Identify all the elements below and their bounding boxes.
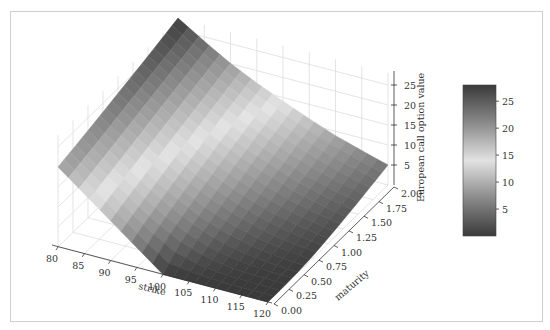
z-tick-label: 5 [404,160,410,171]
y-axis-label: maturity [332,267,371,302]
x-tick-label: 80 [46,253,58,264]
colorbar-tick-label: 15 [502,150,514,161]
x-tick-label: 115 [227,301,245,312]
z-axis-label: European call option value [415,72,426,202]
y-tick-label: 0.50 [311,276,332,287]
y-tick-label: 1.50 [371,217,392,228]
y-tick-label: 0.00 [281,305,302,316]
y-tick-label: 1.00 [341,247,362,258]
x-tick-label: 90 [98,267,110,278]
colorbar-tick-label: 10 [502,177,514,188]
colorbar-tick-label: 20 [502,123,514,134]
x-tick-label: 85 [72,260,84,271]
y-tick-label: 0.25 [296,290,317,301]
colorbar-tick-label: 5 [502,204,508,215]
colorbar-gradient [463,85,496,236]
colorbar: 510152025 [463,85,514,236]
x-tick-label: 105 [174,287,192,298]
surface-plot: 80859095100105110115120 0.000.250.500.75… [0,0,550,330]
x-tick-label: 95 [125,274,137,285]
z-axis-ticks: 510152025 [391,80,416,171]
colorbar-tick-label: 25 [502,96,514,107]
y-tick-label: 0.75 [326,261,347,272]
y-tick-label: 1.25 [356,232,377,243]
x-tick-label: 110 [200,294,218,305]
x-tick-label: 120 [253,308,271,319]
colorbar-ticks: 510152025 [496,96,514,215]
y-tick-label: 1.75 [386,203,407,214]
